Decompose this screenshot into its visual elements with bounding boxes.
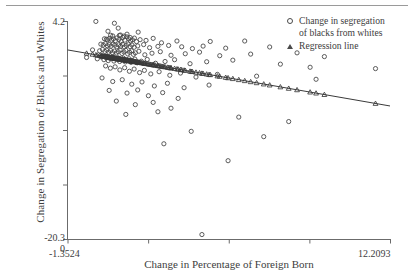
data-point (144, 38, 148, 42)
y-axis-min-tick-label: -20.3 (44, 232, 65, 243)
data-point (168, 73, 172, 77)
data-point (287, 119, 291, 123)
data-point (116, 26, 120, 30)
data-point (231, 58, 235, 62)
data-point (142, 42, 146, 46)
data-point (140, 80, 144, 84)
x-axis-max-tick-label: 12.2093 (358, 248, 391, 259)
data-point (226, 159, 230, 163)
data-point (118, 68, 122, 72)
data-point (161, 91, 165, 95)
data-point (107, 88, 111, 92)
data-point (172, 58, 176, 62)
data-point (156, 110, 160, 114)
data-point (162, 142, 166, 146)
data-point (125, 91, 129, 95)
top-divider-rule (6, 5, 408, 6)
data-point (84, 55, 88, 59)
data-point (106, 29, 110, 33)
data-point (111, 79, 115, 83)
data-point (167, 43, 171, 47)
data-point (255, 74, 259, 78)
data-point (208, 39, 212, 43)
data-point (152, 84, 156, 88)
data-point (180, 45, 184, 49)
data-point (262, 135, 266, 139)
data-point (200, 232, 204, 236)
data-point (189, 129, 193, 133)
data-point (188, 62, 192, 66)
data-point (136, 30, 140, 34)
data-point (156, 44, 160, 48)
data-point (207, 83, 211, 87)
data-point (169, 53, 173, 57)
data-point (175, 39, 179, 43)
data-point (194, 75, 198, 79)
data-point (322, 54, 326, 58)
data-point (127, 69, 131, 73)
data-point (158, 50, 162, 54)
data-point (159, 41, 163, 45)
y-axis-ticks (63, 22, 68, 240)
data-point (165, 81, 169, 85)
data-point (176, 96, 180, 100)
legend-label-segregation-line1: Change in segregation (299, 15, 412, 27)
data-point (123, 66, 127, 70)
x-axis-min-tick-label: -1.3524 (49, 248, 80, 259)
data-point (249, 52, 253, 56)
data-point (113, 65, 117, 69)
data-point (114, 99, 118, 103)
data-point (132, 67, 136, 71)
data-point (136, 88, 140, 92)
chart-legend: Change in segregation of blacks from whi… (286, 15, 412, 53)
triangle-marker-icon (287, 44, 293, 49)
data-point (373, 67, 377, 71)
regression-line (68, 50, 391, 106)
data-point (137, 49, 141, 53)
data-point (112, 21, 116, 25)
data-point (163, 59, 167, 63)
circle-marker-icon (287, 18, 293, 24)
data-point (183, 52, 187, 56)
data-point (148, 46, 152, 50)
axis-lines (67, 21, 391, 240)
data-point (104, 64, 108, 68)
legend-item-regression: Regression line (286, 40, 412, 52)
data-point (108, 66, 112, 70)
data-point (150, 51, 154, 55)
data-point (151, 36, 155, 40)
data-point (205, 60, 209, 64)
data-point (94, 19, 98, 23)
data-point (124, 112, 128, 116)
legend-label-segregation-line2: of blacks from whites (299, 27, 412, 39)
y-axis-max-tick-label: 4.2 (53, 16, 66, 27)
data-point (149, 72, 153, 76)
data-point (243, 39, 247, 43)
data-point (138, 71, 142, 75)
data-point (151, 100, 155, 104)
data-point (182, 86, 186, 90)
data-point (100, 76, 104, 80)
data-point (268, 45, 272, 49)
scatter-plot-figure: Change in Segregation of Blacks and Whit… (0, 0, 414, 280)
data-point (201, 44, 205, 48)
data-point (169, 106, 173, 110)
data-point (146, 94, 150, 98)
data-point (133, 103, 137, 107)
data-point (197, 50, 201, 54)
data-point (278, 62, 282, 66)
data-point (157, 70, 161, 74)
data-point (142, 68, 146, 72)
data-point (308, 65, 312, 69)
data-point (224, 46, 228, 50)
data-point (130, 82, 134, 86)
data-point (314, 77, 318, 81)
legend-label-regression: Regression line (299, 40, 412, 52)
data-point (190, 46, 194, 50)
y-axis-title: Change in Segregation of Blacks and Whit… (34, 17, 46, 227)
data-point (138, 38, 142, 42)
data-point (218, 54, 222, 58)
legend-item-segregation: Change in segregation of blacks from whi… (286, 15, 412, 39)
data-point (120, 78, 124, 82)
x-axis-title: Change in Percentage of Foreign Born (67, 258, 391, 270)
